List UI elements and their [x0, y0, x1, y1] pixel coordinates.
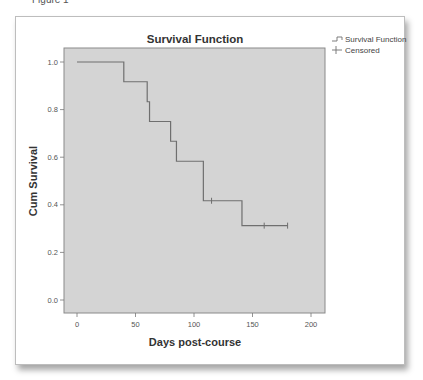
x-tick-label: 150	[246, 320, 259, 329]
y-tick-label: 0.8	[48, 105, 58, 114]
chart-title: Survival Function	[147, 33, 244, 45]
survival-chart: Survival Function 0.00.20.40.60.81.0 050…	[0, 0, 423, 380]
x-tick-label: 50	[131, 320, 139, 329]
plot-area	[64, 48, 325, 313]
y-axis-title: Cum Survival	[27, 146, 39, 216]
y-tick-label: 0.6	[48, 153, 58, 162]
x-axis-title: Days post-course	[149, 336, 241, 348]
y-tick-label: 0.0	[48, 296, 58, 305]
legend: Survival Function Censored	[332, 35, 406, 55]
x-tick-label: 0	[75, 320, 79, 329]
legend-censored-label: Censored	[345, 46, 380, 55]
y-tick-label: 0.4	[48, 200, 58, 209]
legend-survival-icon	[332, 37, 342, 41]
y-axis: 0.00.20.40.60.81.0	[48, 58, 64, 305]
legend-censored-icon	[332, 46, 342, 54]
y-tick-label: 1.0	[48, 58, 58, 67]
x-tick-label: 200	[305, 320, 318, 329]
legend-survival-label: Survival Function	[345, 35, 406, 44]
y-tick-label: 0.2	[48, 248, 58, 257]
x-axis: 050100150200	[75, 313, 317, 329]
x-tick-label: 100	[188, 320, 201, 329]
